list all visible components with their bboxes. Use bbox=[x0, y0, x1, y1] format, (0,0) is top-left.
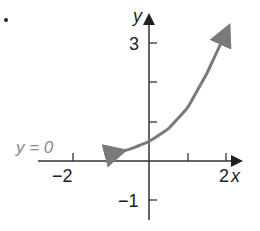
tick-label-2: 2 bbox=[219, 166, 229, 186]
tick-label-neg2: −2 bbox=[52, 166, 73, 186]
exponential-graph: y x 3 −2 2 −1 y = 0 bbox=[0, 0, 260, 231]
tick-label-3: 3 bbox=[129, 34, 139, 54]
tick-label-neg1: −1 bbox=[118, 191, 139, 211]
x-axis-label: x bbox=[230, 166, 241, 186]
y-axis-label: y bbox=[131, 6, 143, 26]
asymptote-label: y = 0 bbox=[15, 138, 54, 157]
y-ticks bbox=[149, 43, 157, 200]
